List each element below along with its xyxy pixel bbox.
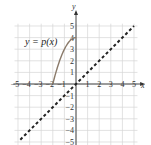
svg-text:2: 2 <box>70 57 74 66</box>
svg-text:−5: −5 <box>65 138 74 145</box>
y-axis-label: y <box>71 2 76 11</box>
x-axis-label: x <box>140 81 145 90</box>
axes <box>13 10 145 145</box>
svg-text:2: 2 <box>97 80 101 89</box>
svg-text:5: 5 <box>70 22 74 31</box>
svg-text:3: 3 <box>109 80 113 89</box>
svg-text:−1: −1 <box>57 80 66 89</box>
svg-text:1: 1 <box>86 80 90 89</box>
svg-text:3: 3 <box>70 45 74 54</box>
svg-text:−3: −3 <box>65 115 74 124</box>
graph: −5−4−3−2−11234554321−1−2−3−4−5 y = p(x) … <box>0 0 151 145</box>
svg-text:−4: −4 <box>22 80 31 89</box>
svg-text:5: 5 <box>132 80 136 89</box>
svg-text:−2: −2 <box>65 103 74 112</box>
svg-text:−1: −1 <box>65 92 74 101</box>
svg-text:−4: −4 <box>65 126 74 135</box>
function-label: y = p(x) <box>24 36 58 48</box>
svg-text:−3: −3 <box>34 80 43 89</box>
svg-text:−5: −5 <box>11 80 20 89</box>
svg-text:1: 1 <box>70 68 74 77</box>
svg-text:4: 4 <box>120 80 124 89</box>
